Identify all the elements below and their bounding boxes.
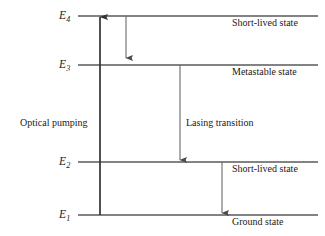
level-label-e2: E2 <box>59 156 70 168</box>
level-subscript-e3: 3 <box>66 64 70 73</box>
state-label-e2: Short-lived state <box>232 164 298 174</box>
level-subscript-e4: 4 <box>66 15 70 24</box>
level-label-e4: E4 <box>59 10 70 22</box>
state-label-e1: Ground state <box>232 217 283 227</box>
optical-pumping-label: Optical pumping <box>20 118 88 128</box>
state-label-e4: Short-lived state <box>232 18 298 28</box>
level-label-e3: E3 <box>59 59 70 71</box>
level-subscript-e2: 2 <box>66 161 70 170</box>
level-symbol-e3: E <box>59 58 66 70</box>
level-symbol-e1: E <box>59 208 66 220</box>
level-subscript-e1: 1 <box>66 214 70 223</box>
level-symbol-e4: E <box>59 9 66 21</box>
level-symbol-e2: E <box>59 155 66 167</box>
energy-level-diagram: E4 E3 E2 E1 Short-lived state Metastable… <box>0 0 325 236</box>
lasing-transition-label: Lasing transition <box>186 118 254 128</box>
transition-arrows <box>100 16 222 215</box>
level-label-e1: E1 <box>59 209 70 221</box>
state-label-e3: Metastable state <box>232 67 297 77</box>
level-lines <box>78 16 318 215</box>
